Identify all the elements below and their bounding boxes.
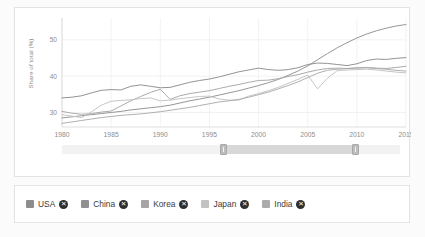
legend-item-label: Korea xyxy=(153,199,175,209)
chart-card: Share of total (%) 304050198019851990199… xyxy=(14,7,410,177)
svg-text:2015: 2015 xyxy=(398,131,411,138)
legend-remove-icon[interactable]: ✕ xyxy=(296,200,305,209)
legend-remove-icon[interactable]: ✕ xyxy=(59,200,68,209)
svg-text:50: 50 xyxy=(50,36,58,43)
legend-item-label: Japan xyxy=(213,199,236,209)
legend-item-korea[interactable]: Korea✕ xyxy=(141,199,188,209)
legend-item-label: China xyxy=(93,199,115,209)
svg-text:40: 40 xyxy=(50,73,58,80)
chart-page: Share of total (%) 304050198019851990199… xyxy=(0,0,425,237)
svg-text:2010: 2010 xyxy=(349,131,364,138)
range-slider-selection[interactable] xyxy=(222,145,355,154)
legend-swatch-icon xyxy=(141,200,149,208)
line-chart-svg: 30405019801985199019952000200520102015 xyxy=(15,8,411,140)
legend-remove-icon[interactable]: ✕ xyxy=(179,200,188,209)
legend-swatch-icon xyxy=(262,200,270,208)
legend-remove-icon[interactable]: ✕ xyxy=(119,200,128,209)
svg-text:2000: 2000 xyxy=(251,131,266,138)
svg-text:1995: 1995 xyxy=(202,131,217,138)
svg-text:2005: 2005 xyxy=(300,131,315,138)
range-slider-handle-left[interactable] xyxy=(220,144,227,155)
svg-text:1980: 1980 xyxy=(54,131,69,138)
svg-text:30: 30 xyxy=(50,109,58,116)
legend-item-label: USA xyxy=(38,199,55,209)
legend-swatch-icon xyxy=(81,200,89,208)
legend-remove-icon[interactable]: ✕ xyxy=(240,200,249,209)
legend-item-label: India xyxy=(274,199,292,209)
svg-text:1985: 1985 xyxy=(104,131,119,138)
legend-card: USA✕China✕Korea✕Japan✕India✕ xyxy=(14,185,410,223)
svg-text:1990: 1990 xyxy=(153,131,168,138)
legend-item-china[interactable]: China✕ xyxy=(81,199,128,209)
range-slider-handle-right[interactable] xyxy=(352,144,359,155)
legend-item-india[interactable]: India✕ xyxy=(262,199,305,209)
legend-swatch-icon xyxy=(201,200,209,208)
legend-swatch-icon xyxy=(26,200,34,208)
legend-item-usa[interactable]: USA✕ xyxy=(26,199,68,209)
legend-item-japan[interactable]: Japan✕ xyxy=(201,199,249,209)
